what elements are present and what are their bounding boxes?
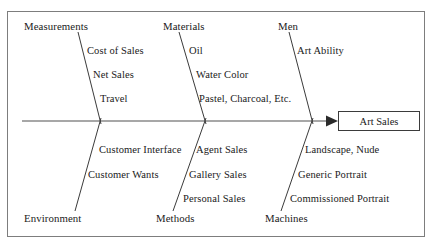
cause-label-travel: Travel: [100, 93, 128, 105]
cause-label-net-sales: Net Sales: [93, 69, 134, 81]
fishbone-diagram: Measurements Materials Men Cost of Sales…: [0, 0, 433, 245]
effect-box: Art Sales: [338, 111, 420, 131]
cause-label-water-color: Water Color: [196, 69, 248, 81]
category-label-methods: Methods: [156, 212, 195, 224]
cause-label-commissioned-portrait: Commissioned Portrait: [290, 193, 389, 205]
cause-label-customer-interface: Customer Interface: [99, 144, 182, 156]
cause-label-generic-portrait: Generic Portrait: [298, 169, 367, 181]
cause-label-art-ability: Art Ability: [297, 45, 344, 57]
category-label-measurements: Measurements: [24, 20, 88, 32]
category-label-materials: Materials: [163, 20, 205, 32]
cause-label-pastel-charcoal-etc: Pastel, Charcoal, Etc.: [199, 93, 291, 105]
cause-label-landscape-nude: Landscape, Nude: [305, 144, 379, 156]
cause-label-gallery-sales: Gallery Sales: [189, 169, 247, 181]
category-label-men: Men: [278, 20, 298, 32]
cause-label-personal-sales: Personal Sales: [183, 193, 245, 205]
cause-label-oil: Oil: [189, 45, 203, 57]
effect-label: Art Sales: [360, 116, 399, 127]
cause-label-cost-of-sales: Cost of Sales: [87, 45, 144, 57]
bone-environment: [75, 118, 101, 211]
cause-label-customer-wants: Customer Wants: [88, 169, 159, 181]
cause-label-agent-sales: Agent Sales: [196, 144, 248, 156]
spine-arrowhead: [326, 116, 338, 127]
category-label-environment: Environment: [24, 212, 81, 224]
category-label-machines: Machines: [265, 212, 308, 224]
